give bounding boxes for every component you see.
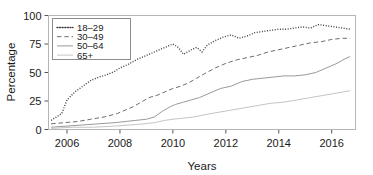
series-line-50-64: [51, 57, 350, 128]
y-tick-label: 100: [23, 10, 41, 22]
x-tick-label: 2012: [214, 137, 238, 149]
y-tick-label: 25: [29, 95, 41, 107]
y-tick-label: 0: [35, 124, 41, 136]
x-axis-ticks: [67, 130, 332, 134]
x-axis-title: Years: [188, 160, 217, 172]
x-tick-label: 2008: [108, 137, 132, 149]
line-chart: 0255075100 200620082010201220142016 Perc…: [0, 0, 373, 175]
y-axis-title: Percentage: [5, 43, 17, 102]
y-axis-tick-labels: 0255075100: [23, 10, 41, 136]
legend: 18–2930–4950–6465+: [53, 19, 131, 61]
x-tick-label: 2006: [55, 137, 79, 149]
y-axis-ticks: [45, 16, 49, 130]
series-line-65+: [51, 91, 350, 129]
x-tick-label: 2014: [267, 137, 291, 149]
y-tick-label: 75: [29, 38, 41, 50]
x-tick-label: 2016: [319, 137, 343, 149]
x-tick-label: 2010: [161, 137, 185, 149]
chart-figure: 0255075100 200620082010201220142016 Perc…: [0, 0, 373, 175]
legend-label-65+: 65+: [77, 50, 94, 61]
x-axis-tick-labels: 200620082010201220142016: [55, 137, 344, 149]
y-tick-label: 50: [29, 67, 41, 79]
